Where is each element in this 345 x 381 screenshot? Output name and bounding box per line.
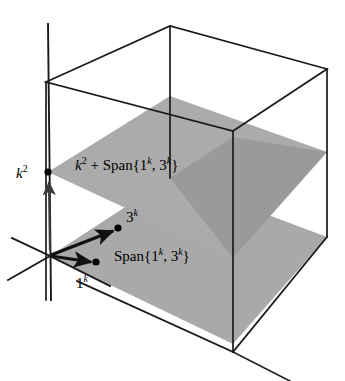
- point-dot-1k: [92, 258, 99, 265]
- point-dot-3k: [114, 224, 121, 231]
- label-k2-point: k2: [16, 163, 28, 181]
- figure-container: k2 k2 + Span{1k, 3k} 3k Span{1k, 3k} 1k: [0, 0, 345, 381]
- label-lower-middle: , 3: [163, 248, 178, 264]
- axis-oblique-back: [12, 238, 50, 256]
- box-edge-bottom-front-extension: [233, 352, 290, 381]
- label-upper-connector: + Span{1: [87, 157, 148, 173]
- label-3k-exponent: k: [134, 207, 139, 218]
- label-vector-1k: 1k: [76, 273, 89, 291]
- axis-vertical: [48, 24, 51, 300]
- label-k2-exponent: 2: [23, 163, 28, 174]
- label-upper-middle: , 3: [152, 157, 167, 173]
- label-3k-base: 3: [126, 209, 134, 225]
- label-1k-base: 1: [76, 275, 84, 291]
- linear-algebra-diagram: k2 k2 + Span{1k, 3k} 3k Span{1k, 3k} 1k: [0, 0, 345, 381]
- label-upper-plane: k2 + Span{1k, 3k}: [75, 155, 178, 173]
- label-lower-lead: Span{1: [114, 248, 159, 264]
- shaded-planes: [48, 96, 327, 344]
- axis-oblique-left: [8, 256, 50, 280]
- axis-arrow-to-k2: [49, 182, 50, 250]
- point-dot-k2: [44, 168, 51, 175]
- label-1k-exponent: k: [84, 273, 89, 284]
- label-upper-close: }: [171, 157, 178, 173]
- label-lower-close: }: [183, 248, 190, 264]
